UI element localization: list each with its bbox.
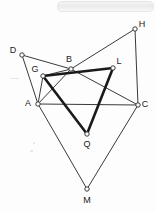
vertex-marker-d [20,53,24,57]
vertex-label-m: M [83,195,91,205]
vertex-label-c: C [142,99,149,109]
vertex-marker-m [85,187,89,191]
vertex-label-l: L [116,56,121,66]
vertex-label-layer: DGABLHCQM [10,19,149,205]
vertex-marker-b [69,67,73,71]
vertex-marker-layer [20,27,140,191]
edge-a-m [38,104,87,189]
figure-canvas: DGABLHCQM [0,0,156,212]
vertex-label-b: B [66,54,72,64]
edge-h-c [135,29,138,105]
bold-edge-q-g [43,76,87,134]
vertex-label-g: G [31,64,38,74]
edge-a-c [38,104,138,105]
edge-d-a [22,55,38,104]
vertex-marker-l [111,66,115,70]
geometry-diagram: DGABLHCQM [0,0,156,212]
vertex-marker-q [85,132,89,136]
vertex-marker-a [36,102,40,106]
vertex-marker-g [41,74,45,78]
bold-edge-layer [43,68,113,134]
edge-b-h [71,29,135,69]
thin-edge-layer [22,29,138,189]
vertex-label-d: D [10,45,17,55]
bold-edge-l-q [87,68,113,134]
vertex-marker-h [133,27,137,31]
vertex-marker-c [136,103,140,107]
edge-d-b [22,55,71,69]
vertex-label-h: H [139,19,146,29]
vertex-label-q: Q [83,139,90,149]
vertex-label-a: A [25,98,31,108]
bold-edge-g-l [43,68,113,76]
